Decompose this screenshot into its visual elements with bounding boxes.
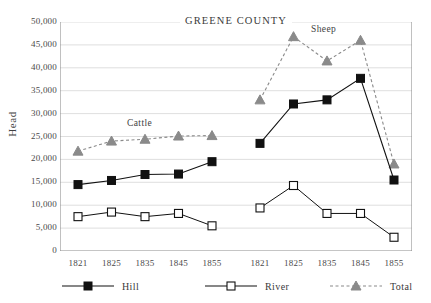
y-tick-label: 5,000	[5, 223, 57, 232]
y-tick-label: 15,000	[5, 177, 57, 186]
y-tick-label: 50,000	[5, 17, 57, 26]
legend-item-river[interactable]: River	[205, 279, 289, 293]
plot-area	[60, 22, 412, 251]
chart-legend: HillRiverTotal	[0, 279, 431, 299]
y-tick-label: 45,000	[5, 40, 57, 49]
legend-label: Total	[390, 281, 412, 292]
annotation-sheep: Sheep	[311, 24, 336, 34]
legend-item-total[interactable]: Total	[330, 279, 412, 293]
plot-svg	[60, 22, 412, 251]
legend-swatch-river	[205, 279, 257, 293]
chart-container: Head 50,00045,00040,00035,00030,00025,00…	[0, 0, 431, 303]
x-tick-label: 1855	[374, 258, 414, 268]
legend-swatch-hill	[62, 279, 114, 293]
x-tick-label: 1855	[192, 258, 232, 268]
y-tick-label: 30,000	[5, 109, 57, 118]
series-hill-cattle	[74, 158, 216, 189]
annotation-cattle: Cattle	[127, 118, 152, 128]
y-tick-label: 35,000	[5, 86, 57, 95]
legend-item-hill[interactable]: Hill	[62, 279, 139, 293]
y-tick-label: 25,000	[5, 132, 57, 141]
y-tick-label: 20,000	[5, 154, 57, 163]
y-tick-label: 10,000	[5, 200, 57, 209]
series-total-cattle	[73, 131, 217, 156]
legend-label: Hill	[122, 281, 139, 292]
series-river-cattle	[74, 208, 216, 230]
series-river-sheep	[256, 182, 398, 242]
y-tick-label: 40,000	[5, 63, 57, 72]
chart-title: GREENE COUNTY	[180, 15, 292, 26]
y-tick-label: 0	[5, 246, 57, 255]
legend-label: River	[265, 281, 289, 292]
legend-swatch-total	[330, 279, 382, 293]
y-axis-tick-labels: 50,00045,00040,00035,00030,00025,00020,0…	[0, 0, 57, 303]
